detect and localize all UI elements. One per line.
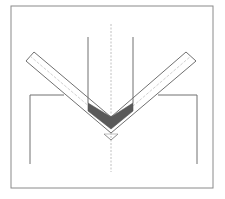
- die-right: [158, 95, 197, 164]
- die-left: [30, 95, 64, 164]
- press-brake-diagram: [0, 0, 225, 199]
- diagram-frame: [11, 6, 213, 188]
- sheet-midline: [30, 56, 191, 125]
